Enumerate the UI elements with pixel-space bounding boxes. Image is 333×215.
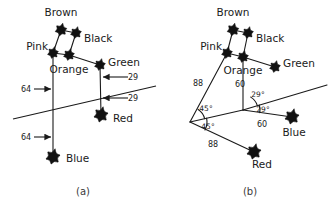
node-label-red: Red bbox=[113, 112, 133, 124]
star-marker-pink[interactable] bbox=[222, 47, 233, 59]
node-label-brown: Brown bbox=[45, 6, 78, 18]
angle-label-b-1: 45° bbox=[201, 122, 215, 131]
node-label-brown: Brown bbox=[217, 6, 250, 18]
dimension-label-b-3: 60 bbox=[257, 120, 267, 129]
diagram-canvas: 64642929BrownBlackPinkOrangeGreenRedBlue… bbox=[0, 0, 333, 215]
star-marker-orange[interactable] bbox=[238, 51, 249, 63]
star-marker-green[interactable] bbox=[95, 59, 106, 71]
node-label-pink: Pink bbox=[26, 40, 49, 52]
star-marker-pink[interactable] bbox=[48, 47, 59, 59]
star-marker-black[interactable] bbox=[243, 27, 254, 39]
star-marker-orange[interactable] bbox=[64, 49, 75, 61]
star-marker-brown[interactable] bbox=[227, 23, 238, 36]
dimension-label-b-1: 88 bbox=[208, 140, 218, 149]
node-label-blue: Blue bbox=[282, 126, 305, 138]
ray-b-1 bbox=[190, 122, 254, 152]
panel-b: 8888606045°45°29°29°BrownBlackPinkOrange… bbox=[190, 6, 327, 197]
dimension-label-a-2: 29 bbox=[128, 73, 138, 82]
figure-container: 64642929BrownBlackPinkOrangeGreenRedBlue… bbox=[0, 0, 333, 215]
angle-label-b-2: 29° bbox=[251, 90, 265, 99]
star-marker-blue[interactable] bbox=[285, 109, 299, 124]
node-label-black: Black bbox=[256, 32, 285, 44]
dimension-label-a-1: 64 bbox=[21, 133, 31, 142]
ray-b-2 bbox=[190, 110, 243, 122]
node-label-orange: Orange bbox=[224, 64, 263, 76]
node-label-black: Black bbox=[84, 32, 113, 44]
dimension-label-a-0: 64 bbox=[21, 85, 31, 94]
panel-a: 64642929BrownBlackPinkOrangeGreenRedBlue… bbox=[13, 6, 156, 197]
node-label-red: Red bbox=[252, 158, 272, 170]
panel-caption-b: (b) bbox=[243, 186, 257, 197]
dimension-label-b-2: 60 bbox=[235, 80, 245, 89]
node-label-pink: Pink bbox=[200, 40, 223, 52]
node-label-green: Green bbox=[283, 57, 315, 69]
star-marker-green[interactable] bbox=[270, 61, 281, 73]
node-label-green: Green bbox=[108, 56, 140, 68]
dimension-label-b-0: 88 bbox=[193, 79, 203, 88]
star-marker-red[interactable] bbox=[247, 144, 261, 159]
angle-label-b-0: 45° bbox=[199, 104, 213, 113]
edge-green-red bbox=[100, 65, 101, 115]
angle-label-b-3: 29° bbox=[256, 105, 270, 114]
star-marker-black[interactable] bbox=[71, 27, 82, 39]
node-label-blue: Blue bbox=[66, 152, 89, 164]
node-label-orange: Orange bbox=[50, 63, 89, 75]
star-marker-brown[interactable] bbox=[55, 23, 66, 36]
panel-caption-a: (a) bbox=[76, 186, 90, 197]
dimension-label-a-3: 29 bbox=[128, 94, 138, 103]
